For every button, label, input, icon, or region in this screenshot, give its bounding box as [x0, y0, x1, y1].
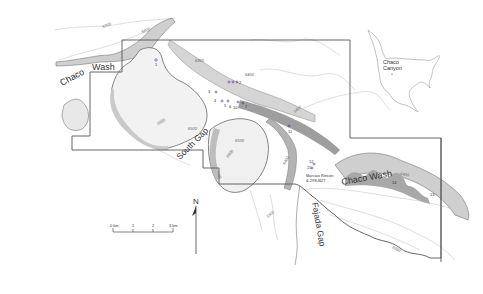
contour-label: 6500 — [265, 209, 276, 219]
contour-label: 6300 — [195, 58, 205, 63]
site-number: 11 — [288, 129, 293, 134]
site-number: 3 — [208, 89, 211, 94]
inset-location-dot — [391, 73, 392, 74]
label-chaco-nw: Chaco — [58, 67, 86, 88]
contour-label: 6500 — [235, 138, 245, 143]
scale-label-1: 1 — [132, 223, 135, 228]
scale-bar: 0 km 1 2 3 km — [110, 223, 178, 232]
contour-label: 6300 — [392, 245, 403, 254]
site-number: 4 — [214, 98, 217, 103]
label-wash-nw: Wash — [92, 62, 115, 72]
north-label: N — [193, 197, 199, 206]
scale-label-3: 3 km — [169, 223, 178, 228]
site-marker[interactable] — [227, 100, 229, 102]
inset-map — [368, 30, 439, 112]
label-29sj627: & 29SJ627 — [306, 178, 326, 183]
west-outlier — [62, 99, 89, 130]
contour-label: 6300 — [102, 21, 113, 29]
contour-label: 6400 — [245, 72, 255, 77]
site-number: 14 — [392, 180, 397, 185]
fajada-wash — [295, 185, 300, 265]
map-canvas: Chaco Wash South Gap Fajada Gap Chaco Wa… — [0, 0, 483, 294]
site-marker[interactable] — [215, 91, 217, 93]
site-number: 10 — [233, 105, 238, 110]
site-marker[interactable] — [237, 101, 239, 103]
contour-label: 6500 — [188, 126, 198, 131]
site-number: 15 — [307, 165, 312, 170]
site-number: 5 — [224, 103, 227, 108]
scale-label-0: 0 km — [110, 223, 119, 228]
site-number: 12 — [309, 159, 314, 164]
north-arrow: N — [192, 197, 199, 254]
site-marker[interactable] — [221, 100, 223, 102]
scale-label-2: 2 — [152, 223, 155, 228]
site-number: 13 — [430, 192, 435, 197]
site-number: 6 — [229, 104, 232, 109]
label-fajada-gap: Fajada Gap — [310, 202, 328, 248]
inset-label-canyon: Canyon — [383, 65, 402, 71]
